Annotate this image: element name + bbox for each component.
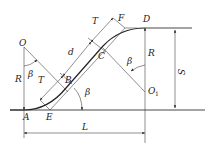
beta-arc-B [74, 88, 82, 110]
label-C: C [98, 51, 105, 61]
label-D: D [142, 14, 150, 24]
label-O: O [19, 38, 27, 48]
label-A: A [22, 112, 30, 122]
label-L: L [81, 122, 88, 132]
label-R-right: R [147, 48, 155, 58]
label-O1-sub: 1 [155, 90, 159, 97]
E-tick [40, 100, 50, 110]
label-d: d [68, 47, 74, 57]
label-B: B [64, 75, 72, 85]
beta-arc-O [24, 60, 37, 66]
label-beta-B: β [84, 87, 90, 97]
tangent-line [50, 58, 98, 110]
label-S: S [176, 69, 186, 75]
s-curve-diagram: O R β T d T F D C B β R β O 1 S A E L [0, 0, 218, 146]
label-F: F [117, 13, 125, 23]
radial-line-O1 [103, 48, 145, 92]
label-beta-O: β [27, 69, 33, 79]
label-T-lower: T [38, 75, 45, 85]
beta-arc-O1 [131, 65, 145, 71]
label-R-left: R [14, 74, 22, 84]
label-T-upper: T [92, 16, 99, 26]
label-beta-O1: β [126, 56, 132, 66]
label-E: E [45, 112, 53, 122]
